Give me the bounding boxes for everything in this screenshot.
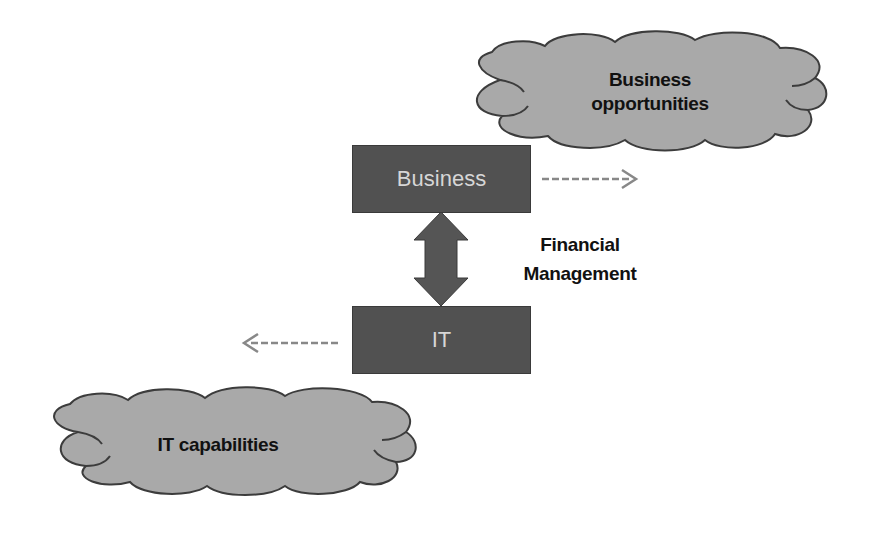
business-box: Business xyxy=(352,145,531,213)
diagram-canvas: Business opportunities Business IT Finan… xyxy=(0,0,871,534)
business-opportunities-line1: Business xyxy=(560,68,740,92)
it-capabilities-label: IT capabilities xyxy=(128,433,308,457)
it-box: IT xyxy=(352,306,531,374)
financial-management-line1: Financial xyxy=(495,230,665,259)
business-box-label: Business xyxy=(397,166,486,192)
business-opportunities-label: Business opportunities xyxy=(560,68,740,116)
financial-management-line2: Management xyxy=(495,259,665,288)
bidirectional-arrow-icon xyxy=(414,212,468,306)
it-box-label: IT xyxy=(432,327,452,353)
dashed-arrow-left-icon xyxy=(244,334,338,352)
dashed-arrow-right-icon xyxy=(542,170,636,188)
business-opportunities-line2: opportunities xyxy=(560,92,740,116)
financial-management-label: Financial Management xyxy=(495,230,665,288)
